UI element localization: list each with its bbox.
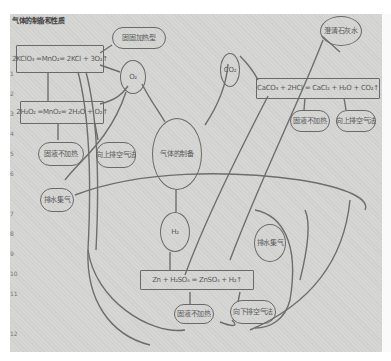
bubble-label: 向上排空气法 <box>96 152 136 159</box>
bubble-label: 向上排空气法 <box>336 118 376 125</box>
gas-node-co2: CO₂ <box>220 53 240 87</box>
reaction-box-caco3: CaCO₃ + 2HCl = CaCl₂ + H₂O + CO₂↑ <box>256 78 380 99</box>
margin-mark: 2 <box>10 90 14 97</box>
bubble-solid-heat: 固固加热型 <box>112 27 166 49</box>
bubble-label: 固液不加热 <box>177 311 211 318</box>
margin-mark: 10 <box>10 270 18 277</box>
bubble-h2-solid-liquid: 固液不加热 <box>174 304 214 324</box>
margin-mark: 5 <box>10 150 14 157</box>
bubble-upward-air: 向上排空气法 <box>96 142 136 168</box>
reaction-equation: Zn + H₂SO₄ = ZnSO₄ + H₂↑ <box>152 277 242 284</box>
bubble-co2-upward: 向上排空气法 <box>336 110 376 132</box>
margin-mark: 8 <box>10 230 14 237</box>
center-node-gas-preparation: 气体的制备 <box>152 118 202 190</box>
bubble-water-collection: 排水集气 <box>40 188 74 212</box>
margin-mark: 11 <box>10 290 18 297</box>
margin-mark: 1 <box>10 70 14 77</box>
margin-mark: 12 <box>10 330 18 337</box>
reaction-equation: 2H₂O₂ =MnO₂= 2H₂O + O₂↑ <box>16 109 107 116</box>
reaction-equation: 2KClO₃ =MnO₂= 2KCl + 3O₂↑ <box>12 56 108 63</box>
reaction-box-zinc: Zn + H₂SO₄ = ZnSO₄ + H₂↑ <box>140 270 254 290</box>
bubble-label: 固固加热型 <box>122 35 156 42</box>
bubble-h2-downward: 向下排空气法 <box>230 300 276 324</box>
bubble-lime-water: 澄清石灰水 <box>320 16 362 46</box>
bubble-label: 澄清石灰水 <box>324 28 358 35</box>
margin-mark: 3 <box>10 110 14 117</box>
reaction-equation: CaCO₃ + 2HCl = CaCl₂ + H₂O + CO₂↑ <box>257 85 379 92</box>
bubble-h2-collect: 排水集气 <box>254 224 286 262</box>
gas-label: H₂ <box>171 229 178 236</box>
bubble-label: 向下排空气法 <box>233 309 273 316</box>
margin-mark: 9 <box>10 250 14 257</box>
bubble-label: 固液不加热 <box>293 118 327 125</box>
bubble-label: 排水集气 <box>44 197 71 204</box>
gas-label: O₂ <box>129 74 137 81</box>
bubble-solid-liquid: 固液不加热 <box>38 142 84 166</box>
gas-label: CO₂ <box>224 67 236 74</box>
bubble-label: 排水集气 <box>257 240 284 247</box>
diagram-title: 气体的制备和性质 <box>12 15 64 25</box>
gas-node-o2: O₂ <box>120 60 146 94</box>
reaction-box-h2o2: 2H₂O₂ =MnO₂= 2H₂O + O₂↑ <box>20 101 104 124</box>
reaction-box-kclo3: 2KClO₃ =MnO₂= 2KCl + 3O₂↑ <box>16 45 104 73</box>
bubble-co2-solid-liquid: 固液不加热 <box>290 110 330 132</box>
gas-node-h2: H₂ <box>160 212 190 252</box>
bubble-label: 固液不加热 <box>44 151 78 158</box>
margin-mark: 7 <box>10 210 14 217</box>
margin-mark: 6 <box>10 170 14 177</box>
margin-mark: 4 <box>10 130 14 137</box>
center-label: 气体的制备 <box>160 151 194 158</box>
